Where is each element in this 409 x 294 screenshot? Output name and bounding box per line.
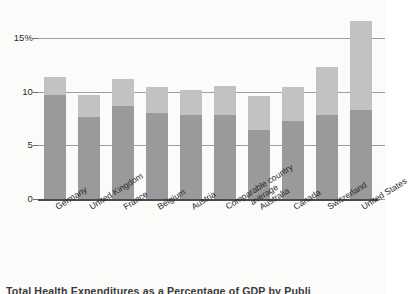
bar-segment-private[interactable]: [146, 87, 168, 113]
bar-segment-private[interactable]: [316, 67, 338, 115]
plot-area: [38, 8, 378, 199]
bar-group[interactable]: [350, 21, 372, 199]
figure-caption: Total Health Expenditures as a Percentag…: [6, 285, 378, 294]
bar-segment-private[interactable]: [112, 79, 134, 106]
bar-segment-public[interactable]: [146, 113, 168, 199]
bar-segment-public[interactable]: [316, 115, 338, 199]
bar-segment-private[interactable]: [44, 77, 66, 95]
bar-segment-private[interactable]: [282, 87, 304, 120]
bar-group[interactable]: [316, 67, 338, 199]
bar-segment-private[interactable]: [214, 86, 236, 115]
y-tick-label-15: 15%: [14, 32, 33, 43]
bar-segment-private[interactable]: [78, 95, 100, 118]
y-axis: 15%1050: [0, 8, 33, 199]
bars-container: [38, 8, 378, 199]
bar-segment-private[interactable]: [248, 96, 270, 130]
right-tick-15: [378, 38, 385, 39]
bar-group[interactable]: [78, 95, 100, 199]
x-axis: GermanyUnited KingdomFranceBelgiumAustri…: [38, 200, 378, 274]
bar-segment-public[interactable]: [180, 115, 202, 199]
bar-segment-private[interactable]: [180, 90, 202, 116]
bar-group[interactable]: [214, 86, 236, 199]
right-tick-5: [378, 145, 385, 146]
bar-group[interactable]: [146, 87, 168, 199]
bar-segment-public[interactable]: [214, 115, 236, 199]
y-tick-label-10: 10: [22, 86, 33, 97]
bar-group[interactable]: [180, 90, 202, 199]
bar-segment-private[interactable]: [350, 21, 372, 110]
right-tick-10: [378, 92, 385, 93]
bar-group[interactable]: [44, 77, 66, 199]
bar-segment-public[interactable]: [44, 95, 66, 199]
